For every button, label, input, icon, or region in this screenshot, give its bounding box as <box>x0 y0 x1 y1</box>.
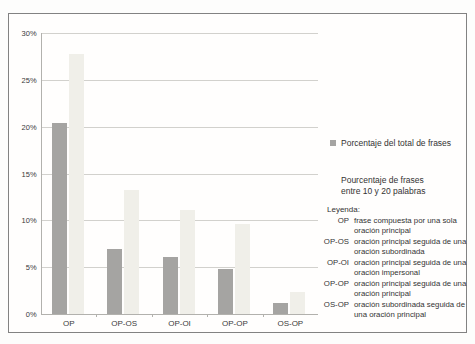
series1-label: Porcentaje del total de frases <box>341 138 451 148</box>
legend-term: OP-OS <box>311 237 349 257</box>
y-axis-tick-label: 15% <box>13 170 37 179</box>
legend-entries: OPfrase compuesta por una sola oración p… <box>311 216 467 321</box>
bar-OP-series1 <box>52 123 67 314</box>
bar-OP-OP-series2 <box>235 224 250 314</box>
y-axis-tick-label: 0% <box>13 310 37 319</box>
x-axis-tick <box>96 314 97 317</box>
y-axis-line <box>41 33 42 314</box>
legend-term: OS-OP <box>311 300 349 320</box>
bar-OP-OI-series1 <box>163 257 178 314</box>
bar-OP-OI-series2 <box>180 210 195 314</box>
bar-OP-series2 <box>69 54 84 314</box>
legend-entry-OP-OS: OP-OSoración principal seguida de una or… <box>311 237 467 257</box>
series-legend-item-2: Pourcentaje de frases entre 10 y 20 pala… <box>341 164 426 197</box>
legend-definition: oración subordinada seguida de una oraci… <box>354 300 467 320</box>
legend-definition: frase compuesta por una sola oración pri… <box>354 216 467 236</box>
bar-OP-OS-series1 <box>107 249 122 314</box>
bar-OP-OS-series2 <box>124 190 139 314</box>
chart-frame: 0%5%10%15%20%25%30%OPOP-OSOP-OIOP-OPOS-O… <box>8 13 467 333</box>
bar-OS-OP-series2 <box>290 292 305 314</box>
x-axis-category-label: OP-OI <box>158 319 202 328</box>
x-axis-tick <box>263 314 264 317</box>
y-axis-tick-label: 5% <box>13 263 37 272</box>
y-axis-tick-label: 20% <box>13 123 37 132</box>
legend-entry-OP: OPfrase compuesta por una sola oración p… <box>311 216 467 236</box>
x-axis-category-label: OS-OP <box>268 319 312 328</box>
legend-definition: oración principal seguida de una oración… <box>354 279 467 299</box>
chart-figure: 0%5%10%15%20%25%30%OPOP-OSOP-OIOP-OPOS-O… <box>0 0 475 344</box>
y-axis-tick-label: 30% <box>13 29 37 38</box>
x-axis-line <box>41 314 318 315</box>
y-axis-tick-label: 25% <box>13 76 37 85</box>
legend-definition: oración principal seguida de una oración… <box>354 258 467 278</box>
legend-entry-OP-OP: OP-OPoración principal seguida de una or… <box>311 279 467 299</box>
x-axis-category-label: OP-OS <box>102 319 146 328</box>
legend-term: OP-OI <box>311 258 349 278</box>
series1-swatch-icon <box>330 140 336 146</box>
legend-key-title: Leyenda: <box>327 205 360 214</box>
legend-entry-OS-OP: OS-OPoración subordinada seguida de una … <box>311 300 467 320</box>
legend-entry-OP-OI: OP-OIoración principal seguida de una or… <box>311 258 467 278</box>
legend-term: OP <box>311 216 349 236</box>
series2-label: Pourcentaje de frases entre 10 y 20 pala… <box>341 175 426 196</box>
x-axis-tick <box>152 314 153 317</box>
legend-definition: oración principal seguida de una oración… <box>354 237 467 257</box>
gridline-30 <box>41 33 318 34</box>
legend-term: OP-OP <box>311 279 349 299</box>
bar-OP-OP-series1 <box>218 269 233 314</box>
series-legend-item-1: Porcentaje del total de frases <box>330 138 451 148</box>
x-axis-category-label: OP <box>47 319 91 328</box>
x-axis-tick <box>207 314 208 317</box>
bar-OS-OP-series1 <box>273 303 288 314</box>
x-axis-category-label: OP-OP <box>213 319 257 328</box>
y-axis-tick-label: 10% <box>13 216 37 225</box>
